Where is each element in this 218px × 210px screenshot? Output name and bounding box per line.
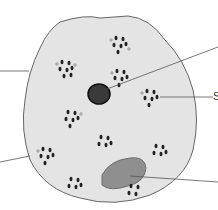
cell-diagram [0, 0, 218, 210]
nucleus [88, 84, 110, 104]
label-right-middle: S [213, 90, 218, 102]
